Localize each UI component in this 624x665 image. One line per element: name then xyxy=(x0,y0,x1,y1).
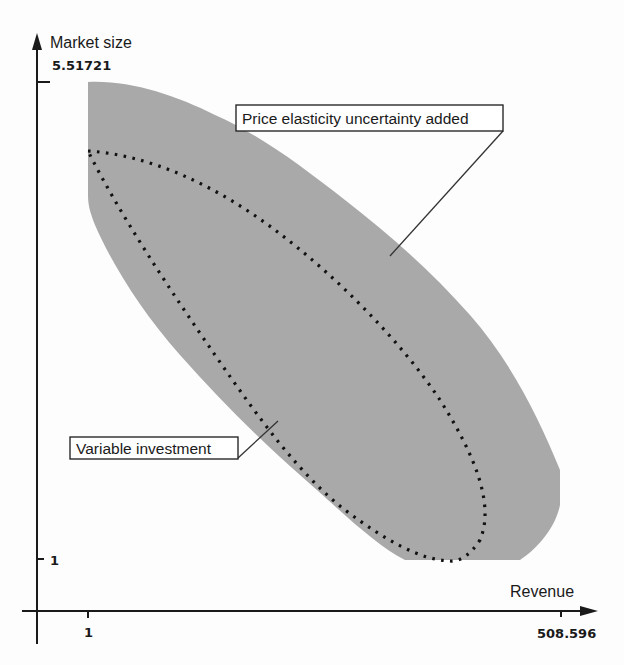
y-axis-arrow-icon xyxy=(32,33,42,50)
y-max-label: 5.51721 xyxy=(52,58,111,73)
x-axis-title: Revenue xyxy=(510,583,574,600)
y-axis xyxy=(37,45,50,644)
annotation-uncertainty-text: Price elasticity uncertainty added xyxy=(242,110,469,127)
x-min-label: 1 xyxy=(84,625,93,640)
annotation-variable-investment: Variable investment xyxy=(70,421,278,459)
annotation-variable-investment-text: Variable investment xyxy=(76,440,212,457)
uncertainty-region xyxy=(88,82,560,560)
y-min-label: 1 xyxy=(50,553,59,568)
x-axis xyxy=(22,611,586,618)
y-axis-title: Market size xyxy=(50,34,132,51)
x-axis-arrow-icon xyxy=(580,606,598,616)
chart-canvas: Market size 5.51721 1 Revenue 1 508.596 … xyxy=(0,0,624,665)
x-max-label: 508.596 xyxy=(537,626,596,641)
